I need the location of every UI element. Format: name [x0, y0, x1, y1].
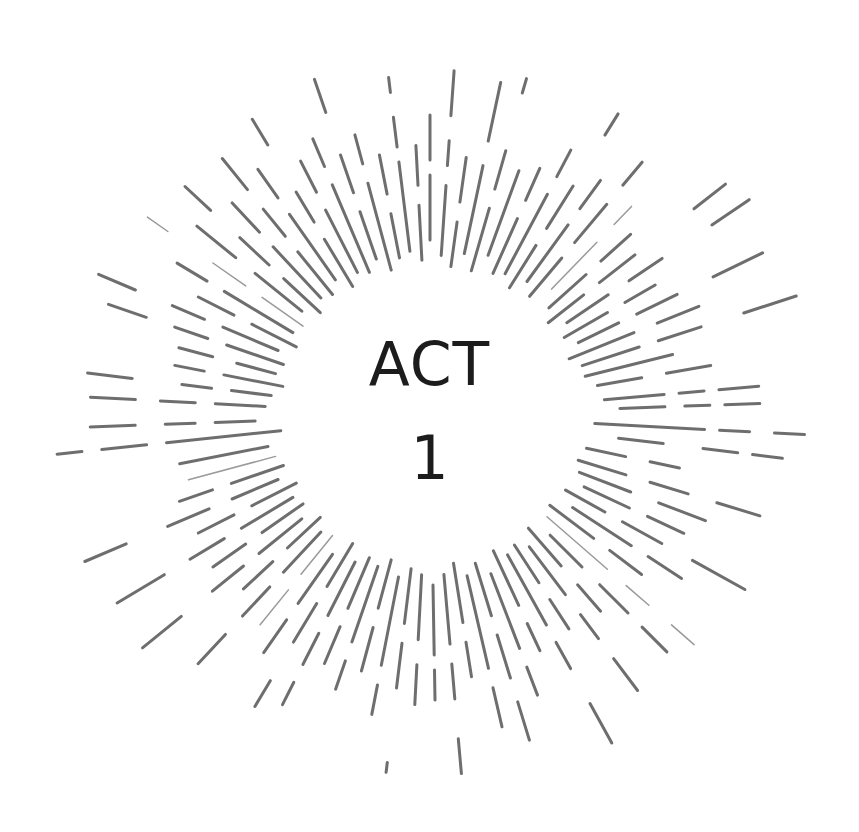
burst-ray-segment — [298, 554, 332, 603]
burst-ray-segment — [263, 209, 285, 236]
burst-ray-segment — [497, 635, 510, 678]
burst-ray-segment — [590, 704, 612, 743]
act-number: 1 — [0, 428, 859, 488]
burst-ray-segment — [259, 519, 302, 554]
burst-ray-segment — [287, 517, 320, 548]
burst-ray-segment — [518, 702, 530, 740]
burst-ray-segment — [415, 665, 417, 705]
burst-ray-segment — [341, 155, 354, 193]
burst-ray-segment — [614, 206, 631, 224]
burst-ray-segment — [447, 141, 449, 166]
burst-ray-segment — [625, 285, 655, 303]
burst-ray-segment — [717, 503, 760, 516]
burst-ray-segment — [99, 274, 136, 290]
burst-ray-segment — [296, 192, 314, 222]
burst-ray-segment — [301, 161, 317, 192]
burst-ray-segment — [301, 536, 333, 575]
burst-ray-segment — [495, 151, 506, 189]
burst-ray-segment — [441, 186, 446, 256]
burst-ray-segment — [213, 263, 246, 286]
burst-ray-segment — [547, 186, 574, 228]
burst-ray-segment — [527, 667, 538, 695]
burst-ray-segment — [626, 586, 649, 606]
burst-ray-segment — [177, 263, 207, 281]
burst-ray-segment — [326, 210, 358, 272]
burst-ray-segment — [143, 616, 182, 647]
burst-ray-segment — [605, 114, 618, 135]
burst-ray-segment — [452, 664, 455, 699]
burst-ray-segment — [648, 557, 682, 579]
burst-ray-segment — [325, 627, 341, 664]
radial-burst-lines — [0, 0, 859, 832]
burst-ray-segment — [629, 258, 662, 280]
burst-ray-segment — [324, 239, 352, 286]
burst-ray-segment — [530, 258, 562, 296]
burst-ray-segment — [393, 117, 397, 147]
burst-ray-segment — [454, 563, 463, 622]
burst-ray-segment — [548, 295, 584, 323]
burst-ray-segment — [198, 515, 234, 533]
burst-ray-segment — [294, 604, 317, 643]
burst-ray-segment — [389, 78, 391, 93]
burst-ray-segment — [672, 625, 695, 645]
burst-ray-segment — [416, 145, 418, 185]
burst-ray-segment — [488, 171, 519, 256]
burst-ray-segment — [622, 522, 661, 544]
burst-ray-segment — [262, 504, 303, 533]
burst-ray-segment — [471, 208, 489, 270]
burst-ray-segment — [657, 306, 699, 323]
burst-ray-segment — [581, 615, 599, 639]
burst-ray-segment — [573, 508, 632, 546]
burst-ray-segment — [283, 682, 294, 704]
burst-ray-segment — [397, 643, 403, 688]
burst-ray-segment — [475, 563, 491, 616]
burst-ray-segment — [91, 397, 136, 399]
burst-ray-segment — [283, 532, 321, 572]
burst-ray-segment — [168, 509, 209, 527]
burst-ray-segment — [491, 574, 520, 649]
burst-ray-segment — [391, 214, 400, 258]
burst-ray-segment — [314, 79, 325, 112]
burst-ray-segment — [360, 212, 376, 259]
burst-ray-segment — [557, 150, 571, 177]
burst-ray-segment — [685, 405, 710, 406]
burst-ray-segment — [404, 569, 411, 624]
burst-ray-segment — [528, 528, 561, 566]
burst-ray-segment — [198, 297, 234, 315]
burst-ray-segment — [240, 238, 269, 265]
burst-ray-segment — [303, 633, 319, 664]
burst-ray-segment — [222, 159, 247, 190]
burst-ray-segment — [692, 560, 745, 589]
burst-ray-segment — [451, 71, 454, 116]
burst-ray-segment — [725, 404, 760, 405]
act-title-card: ACT 1 — [0, 0, 859, 832]
burst-ray-segment — [550, 535, 582, 567]
burst-ray-segment — [435, 670, 436, 700]
burst-ray-segment — [578, 585, 601, 611]
burst-ray-segment — [244, 562, 273, 589]
burst-ray-segment — [185, 187, 211, 211]
burst-ray-segment — [258, 169, 278, 198]
burst-ray-segment — [212, 566, 243, 591]
burst-ray-segment — [550, 600, 569, 629]
burst-ray-segment — [215, 404, 265, 407]
burst-ray-segment — [372, 685, 378, 715]
burst-ray-segment — [601, 234, 631, 261]
burst-ray-segment — [694, 184, 726, 209]
burst-ray-segment — [419, 205, 422, 260]
burst-ray-segment — [610, 550, 642, 574]
burst-ray-segment — [623, 162, 642, 185]
burst-ray-segment — [493, 688, 502, 727]
burst-ray-segment — [642, 627, 667, 652]
burst-ray-segment — [451, 222, 457, 267]
burst-ray-segment — [90, 425, 135, 427]
burst-ray-segment — [522, 79, 526, 93]
burst-ray-segment — [659, 503, 706, 521]
burst-ray-segment — [510, 245, 537, 287]
burst-ray-segment — [255, 273, 302, 311]
burst-ray-segment — [466, 642, 472, 677]
burst-ray-segment — [614, 659, 638, 691]
burst-ray-segment — [172, 306, 204, 320]
burst-ray-segment — [648, 516, 684, 533]
burst-ray-segment — [744, 296, 796, 313]
